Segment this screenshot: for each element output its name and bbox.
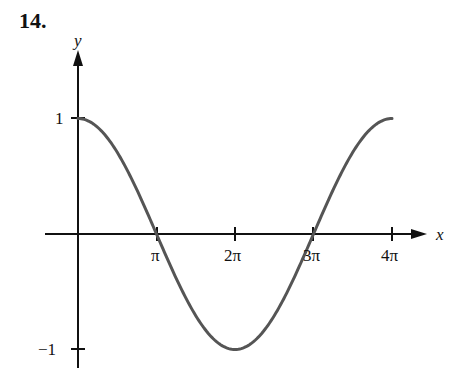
x-tick-label-2pi: 2π: [224, 246, 242, 265]
x-tick-label-pi: π: [151, 246, 160, 265]
y-axis-label: y: [72, 31, 82, 50]
x-tick-label-4pi: 4π: [381, 246, 399, 265]
y-tick-label-neg1: −1: [38, 340, 56, 359]
y-axis-arrow-icon: [73, 50, 83, 66]
x-tick-label-3pi: 3π: [303, 246, 321, 265]
cosine-chart: y x 1 −1 π 2π 3π 4π: [0, 0, 469, 368]
x-axis-arrow-icon: [411, 229, 427, 239]
y-tick-label-1: 1: [55, 109, 64, 128]
x-axis-label: x: [435, 225, 444, 244]
